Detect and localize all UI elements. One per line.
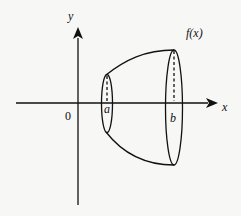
cross-section-b [166, 50, 183, 165]
y-axis-label: y [67, 9, 74, 23]
bound-a-label: a [104, 102, 110, 116]
solid-of-revolution-diagram: y x 0 a b f(x) [0, 0, 241, 216]
diagram-canvas: y x 0 a b f(x) [0, 0, 241, 216]
y-axis-arrow-icon [73, 27, 83, 39]
x-axis [16, 98, 218, 108]
curve-label-fx: f(x) [186, 26, 203, 40]
y-axis [73, 27, 83, 205]
origin-label: 0 [65, 109, 71, 123]
upper-curve-fx [106, 50, 174, 75]
lower-curve-reflection [106, 132, 174, 165]
x-axis-label: x [221, 100, 228, 114]
bound-b-label: b [170, 111, 176, 125]
